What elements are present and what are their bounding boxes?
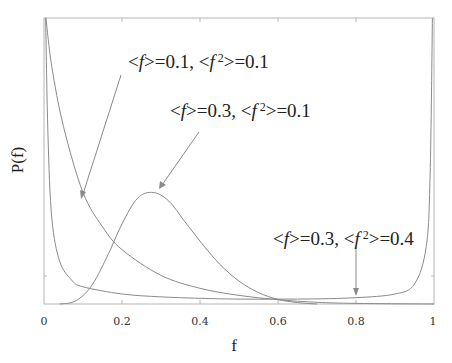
y-axis-label: P(f) <box>8 147 27 173</box>
annotation-label-3: <f>=0.3, <f 2>=0.4 <box>273 228 414 249</box>
annotation-arrow-3 <box>353 247 359 296</box>
probability-distribution-chart: 0 0.2 0.4 0.6 0.8 1 f P(f) <f>=0.1, <f 2… <box>0 0 452 363</box>
annotation-arrow-1 <box>80 75 121 199</box>
x-axis-label: f <box>231 336 237 355</box>
x-tick-label-0: 0 <box>41 315 48 328</box>
x-tick-label-0.4: 0.4 <box>191 315 209 328</box>
annotation-label-2: <f>=0.3, <f 2>=0.1 <box>170 100 311 121</box>
x-tick-label-0.6: 0.6 <box>269 315 287 328</box>
annotation-arrow-2 <box>159 132 199 189</box>
x-tick-label-0.2: 0.2 <box>113 315 131 328</box>
x-tick-label-1: 1 <box>430 315 437 328</box>
x-axis-tick-labels: 0 0.2 0.4 0.6 0.8 1 <box>41 315 437 328</box>
x-tick-label-0.8: 0.8 <box>347 315 365 328</box>
annotation-label-1: <f>=0.1, <f 2>=0.1 <box>128 51 269 72</box>
